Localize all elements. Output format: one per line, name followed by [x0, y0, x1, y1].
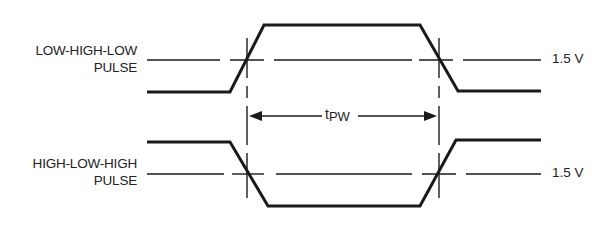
bottom-signal-label-line1: HIGH-LOW-HIGH — [33, 155, 137, 172]
top-signal-label-line2: PULSE — [35, 59, 137, 76]
top-threshold-label: 1.5 V — [552, 51, 584, 67]
timing-diagram: LOW-HIGH-LOW PULSE HIGH-LOW-HIGH PULSE 1… — [0, 0, 613, 227]
bottom-threshold-label: 1.5 V — [552, 165, 584, 181]
arrow-left-head — [249, 111, 262, 121]
bottom-signal-label-line2: PULSE — [33, 172, 137, 189]
waveform-canvas — [0, 0, 613, 227]
arrow-right-head — [424, 111, 437, 121]
high-low-high-waveform — [147, 140, 541, 206]
top-signal-label: LOW-HIGH-LOW PULSE — [35, 42, 137, 76]
pulse-width-label: tPW — [322, 106, 353, 125]
low-high-low-waveform — [147, 25, 541, 92]
bottom-signal-label: HIGH-LOW-HIGH PULSE — [33, 155, 137, 189]
top-signal-label-line1: LOW-HIGH-LOW — [35, 42, 137, 59]
pulse-width-subscript: PW — [329, 109, 350, 124]
